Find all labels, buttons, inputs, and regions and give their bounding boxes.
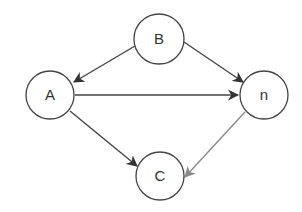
node-label: n xyxy=(260,86,268,103)
edge-n-to-c-arrow xyxy=(185,112,245,177)
node-label: C xyxy=(155,167,166,184)
node-label: A xyxy=(45,86,55,103)
flow-diagram: BAnC xyxy=(0,0,302,212)
edge-b-to-n-arrow xyxy=(184,42,243,82)
node-label: B xyxy=(154,30,164,47)
node-a: A xyxy=(26,71,74,119)
node-c: C xyxy=(136,152,184,200)
edge-b-to-a-arrow xyxy=(74,46,135,82)
node-b: B xyxy=(134,14,184,64)
nodes-group: BAnC xyxy=(26,14,288,200)
node-n: n xyxy=(240,71,288,119)
edge-a-to-c-arrow xyxy=(70,111,137,166)
